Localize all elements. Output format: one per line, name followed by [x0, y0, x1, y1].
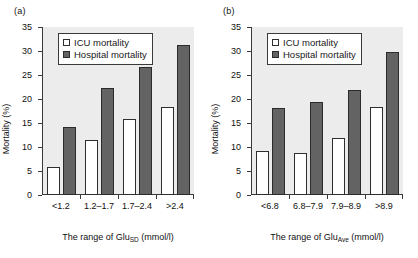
x-tick — [402, 195, 403, 199]
y-tick: 35 — [38, 27, 42, 28]
bar-hospital — [139, 67, 152, 195]
panel-a-x-axis-label-subscript: SD — [130, 236, 139, 243]
x-tick — [327, 195, 328, 199]
y-tick: 30 — [38, 51, 42, 52]
x-category-label: 1.2–1.7 — [84, 201, 114, 211]
y-tick-label: 15 — [231, 119, 241, 128]
bar-hospital — [177, 45, 190, 195]
y-tick-label: 25 — [231, 71, 241, 80]
bar-icu — [161, 107, 174, 195]
legend-label-hospital: Hospital mortality — [74, 49, 147, 61]
x-tick — [80, 195, 81, 199]
legend-item-hospital: Hospital mortality — [272, 49, 356, 61]
y-tick: 30 — [247, 51, 251, 52]
y-tick: 5 — [38, 171, 42, 172]
panel-b-y-axis-label: Mortality (%) — [210, 104, 220, 155]
y-tick-label: 0 — [27, 191, 32, 200]
y-tick-label: 20 — [22, 95, 32, 104]
x-category-label: <6.8 — [261, 201, 279, 211]
panel-b-label: (b) — [223, 6, 235, 16]
panel-a: (a) Mortality (%) 05101520253035 <1.21.2… — [0, 0, 209, 258]
panel-b-x-axis-label-subscript: Ave — [338, 236, 349, 243]
y-tick: 0 — [38, 195, 42, 196]
bar-hospital — [348, 90, 361, 195]
x-tick — [156, 195, 157, 199]
x-tick — [193, 195, 194, 199]
y-tick-label: 0 — [236, 191, 241, 200]
panel-b-legend: ICU mortality Hospital mortality — [267, 33, 362, 65]
bar-icu — [85, 140, 98, 195]
bar-hospital — [310, 102, 323, 195]
y-tick: 0 — [247, 195, 251, 196]
panel-b-plot-area: 05101520253035 <6.86.8–7.97.9–8.9>8.9 IC… — [251, 27, 403, 195]
x-tick — [118, 195, 119, 199]
panel-a-legend: ICU mortality Hospital mortality — [58, 33, 153, 65]
y-tick-label: 5 — [27, 167, 32, 176]
panel-a-label: (a) — [14, 6, 26, 16]
bar-icu — [294, 153, 307, 195]
bar-hospital — [386, 52, 399, 195]
legend-label-icu: ICU mortality — [283, 37, 338, 49]
figure: (a) Mortality (%) 05101520253035 <1.21.2… — [0, 0, 418, 258]
x-category-label: <1.2 — [52, 201, 70, 211]
legend-swatch-hospital-icon — [272, 51, 279, 58]
bar-icu — [256, 151, 269, 195]
y-tick-label: 35 — [22, 23, 32, 32]
legend-label-icu: ICU mortality — [74, 37, 129, 49]
x-tick — [289, 195, 290, 199]
y-tick-label: 20 — [231, 95, 241, 104]
panel-a-plot-area: 05101520253035 <1.21.2–1.71.7–2.4>2.4 IC… — [42, 27, 194, 195]
x-category-label: 6.8–7.9 — [293, 201, 323, 211]
bar-icu — [332, 138, 345, 195]
bar-hospital — [272, 108, 285, 195]
x-category-label: 1.7–2.4 — [122, 201, 152, 211]
panel-b-x-axis-label-suffix: (mmol/l) — [349, 232, 384, 242]
x-category-label: 7.9–8.9 — [331, 201, 361, 211]
panel-b-x-axis-label: The range of GluAve (mmol/l) — [251, 232, 403, 242]
bar-hospital — [63, 127, 76, 195]
y-tick: 15 — [38, 123, 42, 124]
bar-icu — [47, 167, 60, 195]
y-tick: 10 — [38, 147, 42, 148]
y-tick: 25 — [247, 75, 251, 76]
x-tick — [365, 195, 366, 199]
y-tick: 10 — [247, 147, 251, 148]
bar-hospital — [101, 88, 114, 195]
y-tick-label: 30 — [231, 47, 241, 56]
legend-item-icu: ICU mortality — [63, 37, 147, 49]
y-tick: 35 — [247, 27, 251, 28]
y-tick: 20 — [247, 99, 251, 100]
y-tick-label: 30 — [22, 47, 32, 56]
legend-item-icu: ICU mortality — [272, 37, 356, 49]
legend-swatch-hospital-icon — [63, 51, 70, 58]
y-tick-label: 10 — [231, 143, 241, 152]
panel-a-y-axis-label: Mortality (%) — [1, 104, 11, 155]
panel-b: (b) Mortality (%) 05101520253035 <6.86.8… — [209, 0, 418, 258]
y-tick: 25 — [38, 75, 42, 76]
panel-a-x-axis-label-suffix: (mmol/l) — [139, 232, 174, 242]
panel-a-y-axis — [42, 27, 43, 195]
y-tick: 20 — [38, 99, 42, 100]
x-category-label: >2.4 — [166, 201, 184, 211]
legend-swatch-icu-icon — [63, 39, 70, 46]
legend-item-hospital: Hospital mortality — [63, 49, 147, 61]
panel-b-y-axis — [251, 27, 252, 195]
y-tick-label: 15 — [22, 119, 32, 128]
legend-label-hospital: Hospital mortality — [283, 49, 356, 61]
y-tick-label: 10 — [22, 143, 32, 152]
y-tick-label: 25 — [22, 71, 32, 80]
bar-icu — [370, 107, 383, 195]
panel-a-x-axis-label-prefix: The range of Glu — [62, 232, 130, 242]
bar-icu — [123, 119, 136, 195]
y-tick: 5 — [247, 171, 251, 172]
y-tick-label: 35 — [231, 23, 241, 32]
x-category-label: >8.9 — [375, 201, 393, 211]
y-tick-label: 5 — [236, 167, 241, 176]
panel-a-x-axis-label: The range of GluSD (mmol/l) — [42, 232, 194, 242]
panel-b-x-axis-label-prefix: The range of Glu — [270, 232, 338, 242]
y-tick: 15 — [247, 123, 251, 124]
legend-swatch-icu-icon — [272, 39, 279, 46]
